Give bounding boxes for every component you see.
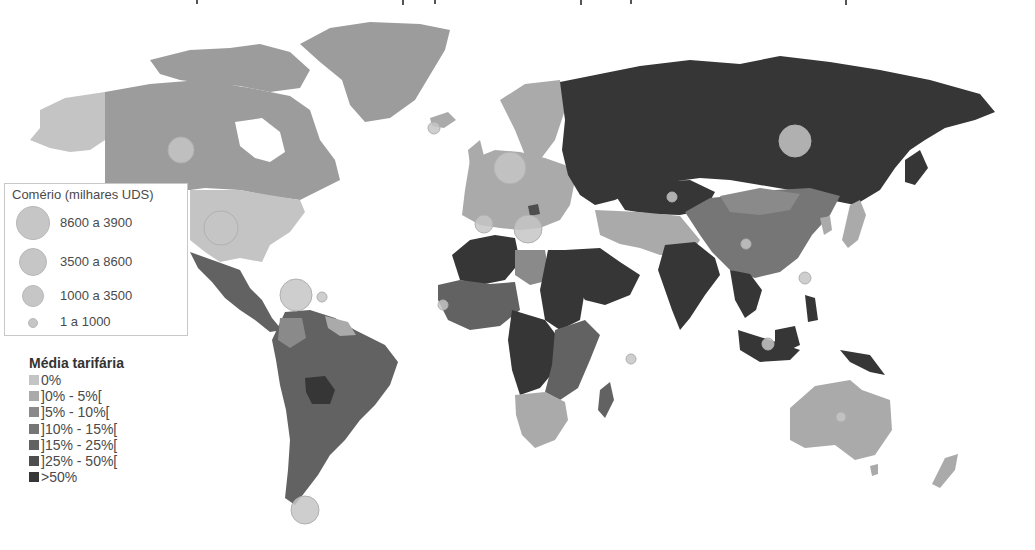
trade-class-label: 1000 a 3500 xyxy=(60,288,132,303)
tariff-legend-title: Média tarifária xyxy=(29,355,124,371)
region-russia[interactable] xyxy=(560,56,995,205)
bubble-icon-large xyxy=(16,206,50,240)
trade-class-label: 1 a 1000 xyxy=(60,314,111,329)
region-mexico[interactable] xyxy=(190,252,282,332)
tariff-class: ]25% - 50%[ xyxy=(29,453,124,469)
swatch-icon xyxy=(29,440,39,450)
bubble-icon-tiny xyxy=(28,318,38,328)
trade-class-label: 3500 a 8600 xyxy=(60,254,132,269)
region-north-africa[interactable] xyxy=(452,235,520,285)
tariff-class: ]10% - 15%[ xyxy=(29,421,124,437)
region-madagascar[interactable] xyxy=(598,382,614,418)
trade-class-label: 8600 a 3900 xyxy=(60,215,132,230)
region-kamchatka[interactable] xyxy=(905,150,928,185)
trade-legend: Comério (milhares UDS) 8600 a 3900 3500 … xyxy=(4,183,188,336)
swatch-icon xyxy=(29,456,39,466)
region-philippines[interactable] xyxy=(805,295,818,322)
tariff-class-label: ]0% - 5%[ xyxy=(41,388,102,404)
region-tasmania[interactable] xyxy=(870,464,878,476)
bubble-icon-small xyxy=(22,285,44,307)
tariff-class: 0% xyxy=(29,372,124,388)
tariff-class-label: ]15% - 25%[ xyxy=(41,437,117,453)
tariff-class-label: >50% xyxy=(41,469,77,485)
bubble-icon-medium xyxy=(19,248,47,276)
region-alaska[interactable] xyxy=(30,92,105,152)
region-new-zealand[interactable] xyxy=(932,454,958,488)
region-southern-africa[interactable] xyxy=(515,392,568,448)
swatch-icon xyxy=(29,407,39,417)
tariff-legend: Média tarifária 0% ]0% - 5%[ ]5% - 10%[ … xyxy=(29,355,124,485)
region-serbia[interactable] xyxy=(528,204,540,216)
tariff-class: ]5% - 10%[ xyxy=(29,404,124,420)
swatch-icon xyxy=(29,424,39,434)
swatch-icon xyxy=(29,472,39,482)
tariff-class: ]0% - 5%[ xyxy=(29,388,124,404)
region-scandinavia[interactable] xyxy=(500,80,565,160)
swatch-icon xyxy=(29,375,39,385)
region-japan[interactable] xyxy=(842,200,866,248)
region-new-guinea[interactable] xyxy=(840,350,885,375)
tariff-class-label: 0% xyxy=(41,372,61,388)
region-west-africa[interactable] xyxy=(438,280,520,330)
tariff-class-label: ]25% - 50%[ xyxy=(41,453,117,469)
tariff-class-label: ]5% - 10%[ xyxy=(41,404,109,420)
tariff-class-label: ]10% - 15%[ xyxy=(41,421,117,437)
swatch-icon xyxy=(29,391,39,401)
tariff-class: ]15% - 25%[ xyxy=(29,437,124,453)
region-canada[interactable] xyxy=(105,80,340,200)
tariff-class: >50% xyxy=(29,469,124,485)
region-korea[interactable] xyxy=(820,216,832,235)
trade-legend-title: Comério (milhares UDS) xyxy=(12,187,154,202)
caption-descenders xyxy=(196,0,847,5)
region-india[interactable] xyxy=(658,242,720,330)
region-greenland[interactable] xyxy=(300,22,450,122)
